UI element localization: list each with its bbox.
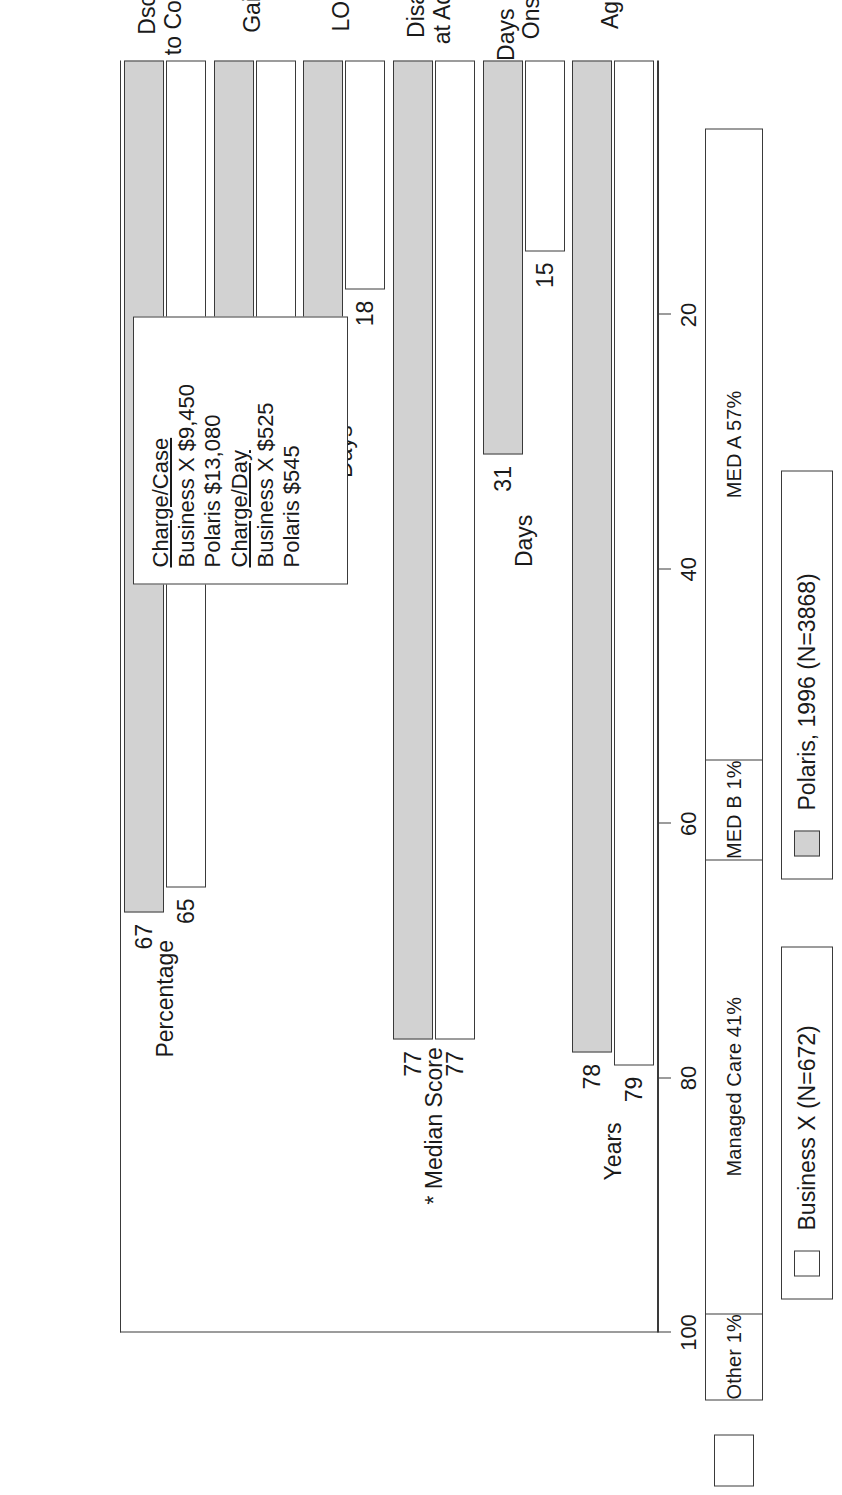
bar-value-business-x: 18 [352,300,379,326]
figure-canvas: Other 1%Managed Care 41%MED B 1%MED A 57… [0,0,842,1495]
unit-label: Days [510,514,537,566]
legend-label-business-x: Business X (N=672) [794,1025,821,1230]
stats-value: Business X $525 [253,333,279,567]
category-label: LOS [329,0,355,31]
legend-label-polaris: Polaris, 1996 (N=3868) [794,573,821,810]
unit-label: Percentage [151,939,178,1057]
axis-tick [658,1331,671,1332]
bar-polaris [483,60,523,454]
axis-tick-label: 20 [676,302,702,326]
axis-tick [658,568,671,569]
category-label: Dsch to Comm [135,0,187,55]
bar-polaris [393,60,433,1039]
stats-value: Polaris $13,080 [200,333,226,567]
axis-tick-label: 40 [676,557,702,581]
bar-polaris [572,60,612,1052]
stats-heading: Charge/Case [148,333,174,567]
value-axis [658,60,659,1332]
axis-tick [658,313,671,314]
payer-segment: MED B 1% [706,759,762,859]
axis-tick [658,1077,671,1078]
category-label: Disab at Adm [404,0,456,44]
category-label: Gain [240,0,266,32]
bar-business-x [435,60,475,1039]
charge-stats-box: Charge/CaseBusiness X $9,450Polaris $13,… [133,316,348,584]
legend-swatch-polaris [794,830,820,856]
bar-value-polaris: 78 [579,1063,606,1089]
axis-tick-label: 80 [676,1065,702,1089]
axis-tick-label: 100 [676,1314,702,1351]
stats-value: Polaris $545 [279,333,305,567]
legend-item-business-x: Business X (N=672) [781,946,833,1299]
payer-segment: Managed Care 41% [706,859,762,1313]
payer-mix-bar: Other 1%Managed Care 41%MED B 1%MED A 57… [705,128,763,1400]
axis-tick-label: 60 [676,811,702,835]
bar-business-x [525,60,565,251]
bar-value-business-x: 15 [531,262,558,288]
bar-business-x [256,60,296,327]
axis-tick [658,822,671,823]
stats-heading: Charge/Day [227,333,253,567]
bar-value-business-x: 79 [621,1076,648,1102]
category-label: Age [598,0,624,28]
legend-item-polaris: Polaris, 1996 (N=3868) [781,470,833,879]
payer-segment: MED A 57% [706,129,762,759]
bar-value-business-x: 65 [172,898,199,924]
rotated-figure: Other 1%Managed Care 41%MED B 1%MED A 57… [0,0,842,1495]
bar-value-polaris: 31 [489,466,516,492]
bar-business-x [345,60,385,289]
category-label: Days Post Onset [494,0,546,60]
payer-mix-swatch [714,1434,754,1486]
payer-segment: Other 1% [706,1313,762,1399]
stats-value: Business X $9,450 [174,333,200,567]
bar-business-x [614,60,654,1065]
unit-label: * Median Score [420,1047,447,1204]
legend-swatch-business-x [794,1250,820,1276]
unit-label: Years [600,1122,627,1180]
bar-polaris [214,60,254,340]
